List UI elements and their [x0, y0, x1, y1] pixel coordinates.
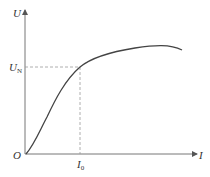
un-label-main: U [9, 61, 17, 73]
y-axis-label: U [13, 8, 21, 19]
un-label: UN [9, 62, 22, 75]
i0-label-sub: 0 [81, 164, 85, 172]
origin-label: O [13, 150, 21, 161]
un-label-sub: N [17, 67, 22, 75]
x-axis-label: I [199, 150, 203, 161]
i0-label: I0 [77, 159, 84, 172]
diagram-canvas [0, 0, 210, 177]
characteristic-curve [26, 46, 182, 154]
